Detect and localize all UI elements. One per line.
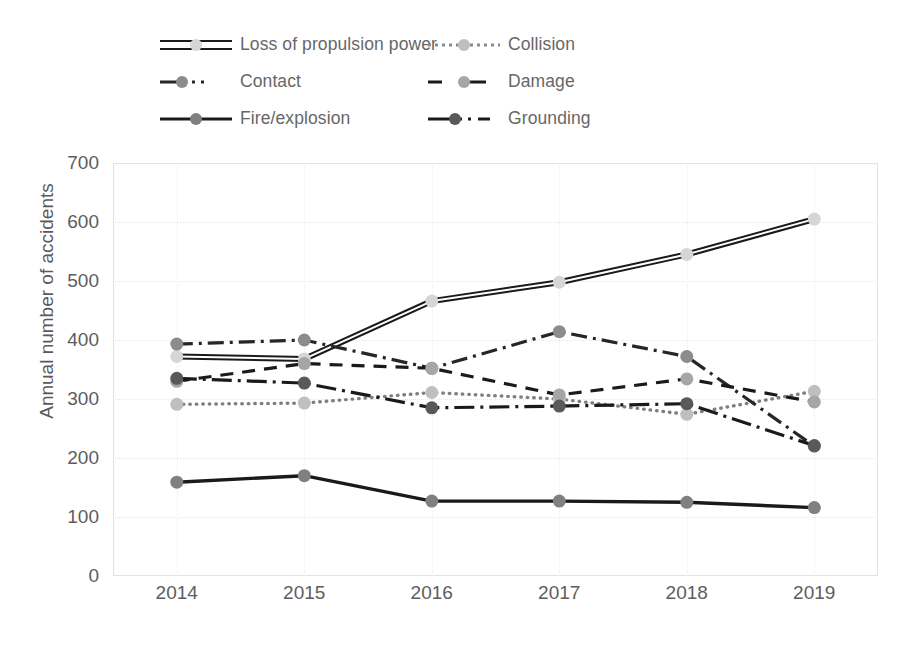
data-point-marker — [425, 295, 438, 308]
data-point-marker — [170, 350, 183, 363]
y-tick-label: 400 — [0, 329, 99, 351]
data-point-marker — [680, 350, 693, 363]
series-loss-of-propulsion-power — [170, 213, 821, 366]
series-collision — [170, 385, 821, 421]
data-point-marker — [553, 325, 566, 338]
data-point-marker — [553, 495, 566, 508]
data-point-marker — [425, 362, 438, 375]
y-tick-label: 500 — [0, 270, 99, 292]
y-tick-label: 100 — [0, 506, 99, 528]
x-tick-label: 2018 — [627, 582, 747, 604]
data-point-marker — [298, 334, 311, 347]
data-point-marker — [553, 276, 566, 289]
x-axis-ticks: 201420152016201720182019 — [113, 582, 878, 622]
y-tick-label: 700 — [0, 152, 99, 174]
legend-swatch-fire-explosion — [160, 111, 232, 127]
data-point-marker — [298, 377, 311, 390]
legend-item-fire-explosion[interactable]: Fire/explosion — [160, 108, 428, 129]
legend-swatch-contact — [160, 74, 232, 90]
legend-item-collision[interactable]: Collision — [428, 34, 678, 55]
data-point-marker — [808, 395, 821, 408]
data-point-marker — [425, 386, 438, 399]
y-tick-label: 300 — [0, 388, 99, 410]
data-point-marker — [553, 388, 566, 401]
legend-label: Loss of propulsion power — [240, 34, 437, 55]
x-tick-label: 2019 — [754, 582, 874, 604]
data-point-marker — [808, 439, 821, 452]
chart-legend: Loss of propulsion power Collision Conta… — [160, 26, 680, 138]
series-contact — [170, 325, 821, 453]
data-point-marker — [425, 401, 438, 414]
data-point-marker — [680, 496, 693, 509]
data-point-marker — [298, 357, 311, 370]
legend-item-grounding[interactable]: Grounding — [428, 108, 678, 129]
data-point-marker — [808, 501, 821, 514]
x-tick-label: 2016 — [372, 582, 492, 604]
legend-row: Loss of propulsion power Collision — [160, 26, 680, 63]
legend-label: Collision — [508, 34, 575, 55]
series-fire-explosion — [170, 469, 821, 514]
legend-swatch-loss-of-propulsion-power — [160, 37, 232, 53]
series-lines — [113, 163, 878, 576]
y-tick-label: 200 — [0, 447, 99, 469]
legend-swatch-damage — [428, 74, 500, 90]
data-point-marker — [170, 476, 183, 489]
legend-swatch-grounding — [428, 111, 500, 127]
plot-area: 0100200300400500600700 20142015201620172… — [113, 163, 878, 576]
legend-item-damage[interactable]: Damage — [428, 71, 678, 92]
legend-row: Contact Damage — [160, 63, 680, 100]
data-point-marker — [680, 248, 693, 261]
data-point-marker — [170, 398, 183, 411]
data-point-marker — [170, 372, 183, 385]
x-tick-label: 2014 — [117, 582, 237, 604]
legend-swatch-collision — [428, 37, 500, 53]
legend-item-loss-of-propulsion-power[interactable]: Loss of propulsion power — [160, 34, 428, 55]
legend-item-contact[interactable]: Contact — [160, 71, 428, 92]
data-point-marker — [680, 372, 693, 385]
y-tick-label: 600 — [0, 211, 99, 233]
data-point-marker — [425, 495, 438, 508]
data-point-marker — [680, 397, 693, 410]
data-point-marker — [298, 397, 311, 410]
legend-label: Contact — [240, 71, 301, 92]
data-point-marker — [298, 469, 311, 482]
data-point-marker — [170, 338, 183, 351]
x-tick-label: 2017 — [499, 582, 619, 604]
legend-label: Grounding — [508, 108, 591, 129]
y-tick-label: 0 — [0, 565, 99, 587]
legend-label: Damage — [508, 71, 575, 92]
x-tick-label: 2015 — [244, 582, 364, 604]
legend-label: Fire/explosion — [240, 108, 350, 129]
data-point-marker — [553, 400, 566, 413]
legend-row: Fire/explosion Grounding — [160, 100, 680, 137]
chart-figure: Loss of propulsion power Collision Conta… — [0, 0, 911, 657]
data-point-marker — [808, 213, 821, 226]
